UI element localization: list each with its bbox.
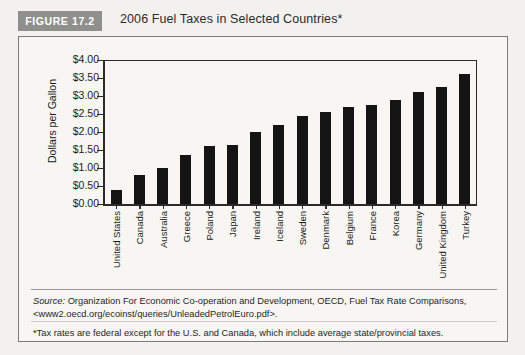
footnote-text: *Tax rates are federal except for the U.…: [33, 327, 495, 340]
x-axis-tick-mark: [186, 205, 187, 209]
x-axis-tick-label: United Kingdom: [436, 211, 447, 279]
x-axis-tick-mark: [302, 205, 303, 209]
bar: [366, 105, 377, 204]
x-axis-tick: [151, 205, 174, 210]
x-axis-tick-label: Ireland: [250, 211, 261, 240]
x-axis-tick-label: Germany: [413, 211, 424, 250]
y-axis-tick-label: $2.00: [73, 125, 99, 137]
y-axis-tick: $3.00: [19, 96, 111, 97]
x-axis-tick-mark: [209, 205, 210, 209]
x-axis-label-slot: Korea: [384, 211, 407, 277]
x-axis-tick: [337, 205, 360, 210]
bar: [204, 146, 215, 204]
bar: [436, 87, 447, 204]
x-axis-tick-label: Belgium: [343, 211, 354, 245]
y-axis-tick: $4.00: [19, 60, 111, 61]
figure-number-badge: FIGURE 17.2: [18, 11, 102, 31]
x-axis-tick-mark: [442, 205, 443, 209]
x-axis-label-slot: Iceland: [267, 211, 290, 277]
x-axis-tick-mark: [465, 205, 466, 209]
x-axis-tick-mark: [418, 205, 419, 209]
x-axis-label-slot: Denmark: [314, 211, 337, 277]
x-axis-tick-mark: [116, 205, 117, 209]
y-axis-tick-mark: [97, 132, 103, 133]
y-axis-tick-mark: [97, 96, 103, 97]
source-url: <www2.oecd.org/ecoinst/queries/UnleadedP…: [33, 308, 495, 321]
bar: [459, 74, 470, 204]
bar-slot: [337, 60, 360, 204]
x-axis-tick: [407, 205, 430, 210]
x-axis-tick-mark: [395, 205, 396, 209]
y-axis-tick: $3.50: [19, 78, 111, 79]
source-note: Source: Organization For Economic Co-ope…: [33, 295, 495, 320]
x-axis-tick-label: France: [366, 211, 377, 241]
x-axis-tick-label: Korea: [390, 211, 401, 236]
y-axis-tick-label: $0.00: [73, 197, 99, 209]
y-axis-tick-label: $3.00: [73, 89, 99, 101]
bar-slot: [128, 60, 151, 204]
y-axis-tick: $1.00: [19, 168, 111, 169]
x-axis-tick-mark: [279, 205, 280, 209]
source-text: Organization For Economic Co-operation a…: [65, 296, 466, 306]
bar-slot: [244, 60, 267, 204]
x-axis-label-slot: Poland: [198, 211, 221, 277]
x-axis-label-slot: Germany: [407, 211, 430, 277]
x-axis-tick-label: Denmark: [320, 211, 331, 250]
bar: [343, 107, 354, 204]
bar-series: [105, 60, 477, 204]
y-axis-tick-mark: [97, 60, 103, 61]
bar: [250, 132, 261, 204]
x-axis-tick-mark: [372, 205, 373, 209]
y-axis-tick-label: $0.50: [73, 179, 99, 191]
x-axis-tick: [291, 205, 314, 210]
x-axis-tick: [128, 205, 151, 210]
x-axis-label-slot: Canada: [128, 211, 151, 277]
y-axis-tick-label: $1.50: [73, 143, 99, 155]
y-axis-tick-mark: [97, 186, 103, 187]
bar: [227, 145, 238, 204]
y-axis-tick-label: $2.50: [73, 107, 99, 119]
x-axis-tick: [267, 205, 290, 210]
x-axis-tick: [430, 205, 453, 210]
x-axis-tick: [314, 205, 337, 210]
x-axis-tick-label: Poland: [204, 211, 215, 241]
x-axis-label-slot: United Kingdom: [430, 211, 453, 277]
bar: [390, 100, 401, 204]
y-axis-tick-mark: [97, 150, 103, 151]
x-axis-label-slot: United States: [105, 211, 128, 277]
y-axis-tick-mark: [97, 114, 103, 115]
x-axis-tick-label: Australia: [157, 211, 168, 248]
y-axis-tick-mark: [97, 168, 103, 169]
x-axis-tick-label: Turkey: [459, 211, 470, 240]
bar-slot: [407, 60, 430, 204]
x-axis-tick: [221, 205, 244, 210]
x-axis-label-slot: Australia: [151, 211, 174, 277]
x-axis-tick: [198, 205, 221, 210]
x-axis-tick-label: Canada: [134, 211, 145, 244]
y-axis-tick-mark: [97, 204, 103, 205]
y-axis-tick: $2.00: [19, 132, 111, 133]
bar-slot: [384, 60, 407, 204]
bar-slot: [198, 60, 221, 204]
bar-chart: Dollars per Gallon $4.00$3.50$3.00$2.50$…: [19, 37, 509, 285]
x-axis-tick-label: Iceland: [273, 211, 284, 242]
bar: [111, 190, 122, 204]
bar: [320, 112, 331, 204]
bar-slot: [314, 60, 337, 204]
bar-slot: [453, 60, 476, 204]
figure-title: 2006 Fuel Taxes in Selected Countries*: [120, 12, 342, 26]
bar-slot: [151, 60, 174, 204]
x-axis-tick: [244, 205, 267, 210]
x-axis-tick: [174, 205, 197, 210]
bar-slot: [174, 60, 197, 204]
bar: [134, 175, 145, 204]
x-axis-label-slot: Sweden: [291, 211, 314, 277]
x-axis-tick: [105, 205, 128, 210]
x-axis-ticks: [105, 205, 477, 210]
y-axis-tick-label: $3.50: [73, 71, 99, 83]
x-axis-tick-label: Sweden: [297, 211, 308, 245]
y-axis-tick: $2.50: [19, 114, 111, 115]
source-divider: [31, 289, 497, 290]
y-axis-tick: $0.50: [19, 186, 111, 187]
bar-slot: [105, 60, 128, 204]
